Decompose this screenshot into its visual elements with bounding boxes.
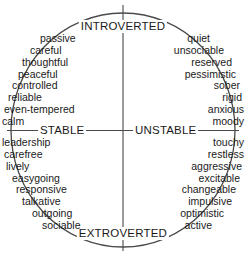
trait-word: sociable [0, 220, 118, 232]
trait-word: lively [0, 161, 118, 173]
trait-word: moody [128, 116, 246, 128]
quadrant-introverted-unstable: quietunsociablereservedpessimisticsoberr… [128, 33, 246, 128]
trait-word: restless [128, 149, 246, 161]
quadrant-unstable-extroverted: touchyrestlessaggressiveexcitablechangea… [128, 137, 246, 232]
trait-word: active [128, 220, 246, 232]
trait-word: calm [0, 116, 118, 128]
quadrant-stable-extroverted: leadershipcarefreelivelyeasygoingrespons… [0, 137, 118, 232]
eysenck-personality-circumplex-diagram: INTROVERTED EXTROVERTED STABLE UNSTABLE … [0, 0, 246, 254]
trait-word: reserved [128, 57, 246, 69]
trait-word: carefree [0, 149, 118, 161]
trait-word: careful [0, 45, 118, 57]
trait-word: thoughtful [0, 57, 118, 69]
trait-word: aggressive [128, 161, 246, 173]
quadrant-introverted-stable: passivecarefulthoughtfulpeacefulcontroll… [0, 33, 118, 128]
pole-label-introverted: INTROVERTED [79, 20, 167, 33]
trait-word: unsociable [128, 45, 246, 57]
